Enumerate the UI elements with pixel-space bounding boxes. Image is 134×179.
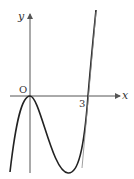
cubic-graph: y x O 3 xyxy=(0,0,134,179)
secondary-trace xyxy=(82,12,96,168)
x-intercept-label: 3 xyxy=(79,98,85,109)
origin-label: O xyxy=(19,84,27,95)
y-axis-label: y xyxy=(17,10,25,23)
x-axis-label: x xyxy=(122,89,129,102)
